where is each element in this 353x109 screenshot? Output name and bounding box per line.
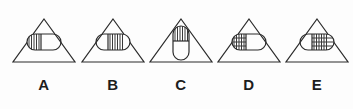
option-a-figure — [9, 12, 79, 72]
triangle-outline — [218, 19, 280, 62]
triangle-outline — [13, 19, 75, 62]
option-e[interactable]: E — [282, 0, 352, 109]
option-c[interactable]: C — [146, 0, 216, 109]
option-a[interactable]: A — [9, 0, 79, 109]
option-c-label: C — [146, 76, 216, 93]
option-b-figure — [78, 12, 148, 72]
option-b-label: B — [78, 76, 148, 93]
option-d-figure — [214, 12, 284, 72]
option-b[interactable]: B — [78, 0, 148, 109]
capsule-hatch-right — [108, 34, 130, 50]
option-e-label: E — [282, 76, 352, 93]
option-e-figure — [282, 12, 352, 72]
option-d[interactable]: D — [214, 0, 284, 109]
capsule-hatch-right — [312, 34, 334, 50]
option-d-label: D — [214, 76, 284, 93]
option-a-label: A — [9, 76, 79, 93]
option-c-figure — [146, 12, 216, 72]
answer-options-panel: A — [0, 0, 353, 109]
